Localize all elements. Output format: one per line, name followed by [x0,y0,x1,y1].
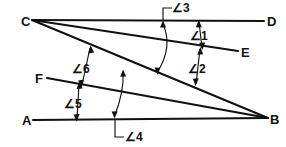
angle-label-5: ∠5 [64,97,82,111]
angle-4-arrowhead-bottom [112,111,118,118]
angle-3-leader [163,8,172,21]
point-label-d: D [267,14,276,29]
diagram-canvas: C D E F A B ∠3 ∠1 ∠2 ∠6 ∠5 ∠4 [0,0,286,147]
angle-4-arrowhead-top [120,70,126,77]
angle-labels-group: ∠3 ∠1 ∠2 ∠6 ∠5 ∠4 [64,1,208,144]
angle-2-arrowhead-bottom [193,78,199,86]
geometry-diagram: C D E F A B ∠3 ∠1 ∠2 ∠6 ∠5 ∠4 [0,0,286,147]
angle-4-marker [112,70,127,138]
point-label-f: F [35,71,43,86]
point-label-b: B [270,112,279,127]
angle-label-1: ∠1 [190,29,208,43]
angle-4-arc [115,73,123,115]
angle-label-4: ∠4 [125,130,143,144]
angle-4-leader [115,119,124,137]
point-label-e: E [241,45,250,60]
angle-label-3: ∠3 [172,1,190,15]
point-label-c: C [21,14,31,29]
angle-label-6: ∠6 [72,62,90,76]
angle-label-2: ∠2 [188,62,206,76]
angle-3-arc [158,24,167,71]
segment-cd [32,20,264,21]
segment-ab [33,118,268,120]
point-label-a: A [22,113,32,128]
